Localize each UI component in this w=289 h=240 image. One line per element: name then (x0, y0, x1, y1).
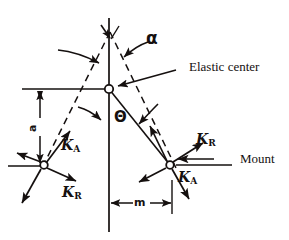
right-mount-node (166, 161, 174, 169)
theta-leader-arrow (78, 107, 101, 120)
right-mount-ka-letter: K (178, 169, 190, 185)
left-mount-kr-letter: K (62, 184, 74, 200)
left-mount-kr-label: KR (62, 185, 82, 201)
mount-label: Mount (240, 152, 275, 165)
theta-right-leader-arrow (139, 104, 158, 124)
elastic-center-node (105, 85, 113, 93)
elastic-center-leader (118, 70, 176, 86)
right-mount-kr-subscript: R (208, 138, 215, 148)
theta-angle-label: Θ (114, 110, 127, 125)
figure-root: α Θ Elastic center Mount a m KA KR KR KA (0, 0, 289, 240)
dimension-a-label: a (27, 125, 38, 132)
strut-elastic-center-right-mount (109, 89, 170, 165)
right-mount-kr-letter: K (196, 131, 208, 147)
elastic-center-label: Elastic center (189, 60, 259, 73)
reference-tick-left (37, 91, 43, 100)
upper-left-leader-arrow (58, 50, 99, 63)
right-mount-ka-label: KA (178, 170, 197, 186)
alpha-angle-label: α (146, 30, 158, 47)
dimension-m-label: m (134, 197, 145, 208)
right-mount-kr-label: KR (196, 132, 216, 148)
left-mount-ka-letter: K (61, 137, 73, 153)
left-mount-kr-subscript: R (74, 191, 81, 201)
right-mount-ka-subscript: A (190, 176, 197, 186)
left-mount-ka-label: KA (61, 138, 80, 154)
alpha-leader-arrow (124, 42, 148, 57)
left-mount-ka-subscript: A (73, 144, 80, 154)
